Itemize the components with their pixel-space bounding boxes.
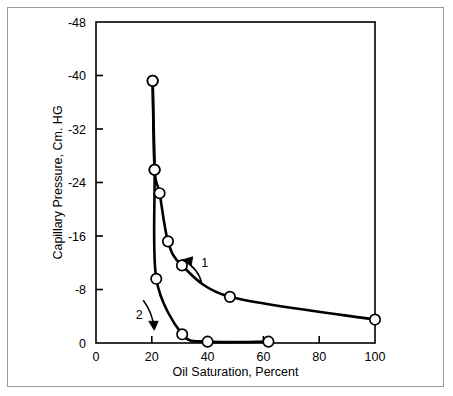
series-line-1 — [153, 81, 375, 320]
y-tick-label: -16 — [68, 230, 86, 244]
data-point-marker — [151, 274, 161, 284]
annotation-label-1: 1 — [201, 256, 208, 270]
y-tick-label: 0 — [79, 337, 86, 351]
y-axis-ticks — [96, 76, 103, 290]
data-point-marker — [154, 188, 164, 198]
x-tick-label: 80 — [312, 350, 326, 364]
data-point-marker — [263, 336, 273, 346]
y-tick-label: -8 — [75, 283, 86, 297]
x-tick-label: 0 — [93, 350, 100, 364]
y-tick-label: -48 — [68, 16, 86, 30]
data-point-marker — [177, 329, 187, 339]
data-point-marker — [149, 165, 159, 175]
x-axis-title: Oil Saturation, Percent — [173, 365, 299, 379]
x-tick-label: 40 — [201, 350, 215, 364]
x-tick-label: 20 — [145, 350, 159, 364]
y-tick-label: -32 — [68, 123, 86, 137]
annotation-arrow-2-head — [149, 321, 159, 330]
data-series-markers — [147, 76, 380, 347]
data-point-marker — [202, 336, 212, 346]
data-point-marker — [370, 314, 380, 324]
y-axis-title: Capillary Pressure, Cm. HG — [51, 105, 65, 259]
data-point-marker — [225, 292, 235, 302]
y-tick-label: -40 — [68, 69, 86, 83]
x-tick-label: 100 — [365, 350, 386, 364]
figure-container: 020406080100 0-8-16-24-32-40-48 12 Oil S… — [0, 0, 453, 396]
data-point-marker — [163, 236, 173, 246]
data-point-marker — [147, 76, 157, 86]
annotation-label-2: 2 — [136, 308, 143, 322]
series-line-2 — [153, 81, 269, 342]
x-axis-tick-labels: 020406080100 — [93, 350, 386, 364]
capillary-pressure-chart: 020406080100 0-8-16-24-32-40-48 12 Oil S… — [0, 0, 453, 396]
y-tick-label: -24 — [68, 176, 86, 190]
y-axis-tick-labels: 0-8-16-24-32-40-48 — [68, 16, 86, 351]
data-series-lines — [153, 81, 375, 342]
x-tick-label: 60 — [256, 350, 270, 364]
